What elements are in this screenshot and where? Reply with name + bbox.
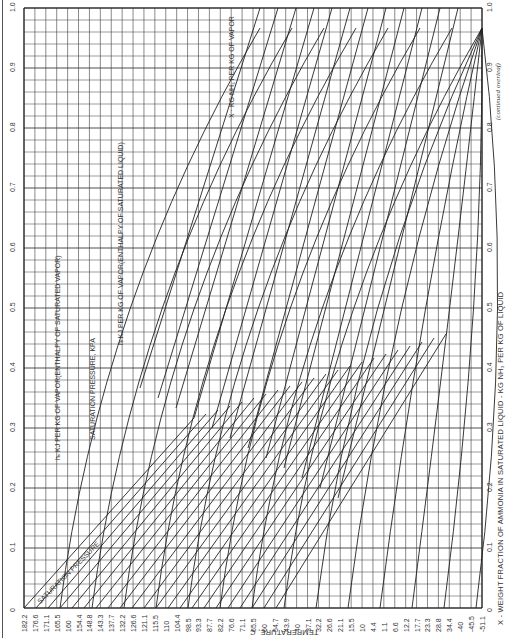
tick-label: 87.7	[206, 618, 213, 632]
tick-label: 132.2	[119, 614, 126, 632]
tick-label: 176.6	[32, 614, 39, 632]
tick-label: 76.6	[228, 618, 235, 632]
tick-label: 23.3	[424, 618, 431, 632]
tick-label: 98.5	[185, 618, 192, 632]
tick-label: 34.4	[446, 618, 453, 632]
tick-label: 126.6	[130, 614, 137, 632]
tick-label: 0.4	[486, 362, 493, 372]
tick-label: 0.3	[9, 422, 16, 432]
tick-label: 121.1	[141, 614, 148, 632]
tick-label: 0.4	[9, 362, 16, 372]
temperature-axis-title: TEMPERATURE, C	[250, 628, 319, 637]
tick-label: 0	[486, 608, 493, 612]
plot-area	[0, 0, 506, 638]
sat-pressure-kpa-label: SATURATION PRESSURE, KPA	[89, 338, 96, 440]
chart: 00.10.20.30.40.50.60.70.80.91.0 00.10.20…	[0, 0, 506, 638]
tick-label: 1.1	[381, 622, 388, 632]
tick-label: 4.4	[370, 622, 377, 632]
tick-label: 1.0	[486, 2, 493, 12]
tick-label: 0.9	[486, 62, 493, 72]
tick-label: 28.8	[435, 618, 442, 632]
tick-label: 15.5	[348, 618, 355, 632]
tick-label: 93.3	[195, 618, 202, 632]
xv-label: X · KG NH₃ PER KG OF VAPOR	[228, 16, 235, 118]
tick-label: 110	[163, 621, 170, 632]
tick-label: 0.2	[486, 482, 493, 492]
tick-label: 17.7	[414, 618, 421, 632]
tick-label: 82.2	[217, 618, 224, 632]
tick-label: 0.1	[9, 542, 16, 552]
tick-label: 160	[65, 620, 72, 632]
tick-label: -51.1	[479, 616, 486, 632]
x-axis-title: X - WEIGHT FRACTION OF AMMONIA IN SATURA…	[496, 292, 505, 625]
tick-label: 143.3	[97, 614, 104, 632]
tick-label: 0.7	[9, 182, 16, 192]
tick-label: 0.2	[9, 482, 16, 492]
tick-label: 165.5	[54, 614, 61, 632]
tick-label: 1.0	[9, 2, 16, 12]
tick-label: 0.5	[9, 302, 16, 312]
continued-note: (continued overleaf)	[494, 63, 502, 120]
hl-label: hₗ KJ PER KG OF VAPOR(ENTHALPY OF SATURA…	[117, 142, 125, 345]
tick-label: -45.5	[468, 616, 475, 632]
tick-label: 154.4	[76, 614, 83, 632]
tick-label: 0.9	[9, 62, 16, 72]
tick-label: 0.6	[9, 242, 16, 252]
tick-label: -40	[457, 622, 464, 632]
tick-label: 71.1	[239, 618, 246, 632]
tick-label: 104.4	[174, 614, 181, 632]
tick-label: 0.8	[486, 122, 493, 132]
tick-label: 10	[359, 624, 366, 632]
tick-label: 0.7	[486, 182, 493, 192]
tick-label: 137.7	[108, 614, 115, 632]
tick-label: 26.6	[326, 618, 333, 632]
tick-label: 0.5	[486, 302, 493, 312]
tick-label: 0.1	[486, 542, 493, 552]
tick-label: 115.5	[152, 615, 159, 632]
tick-label: 6.6	[392, 622, 399, 632]
tick-label: 0.6	[486, 242, 493, 252]
tick-label: 0	[9, 608, 16, 612]
tick-label: 171.1	[43, 614, 50, 632]
tick-label: 0.8	[9, 122, 16, 132]
tick-label: 182.2	[21, 614, 28, 632]
tick-label: 12.2	[403, 618, 410, 632]
tick-label: 148.8	[86, 614, 93, 632]
hv-label: hᵥ KJ PER KG OF VAPOR(ENTHALPY OF SATURA…	[54, 255, 61, 460]
tick-label: 21.1	[337, 618, 344, 632]
tick-label: 0.3	[486, 422, 493, 432]
